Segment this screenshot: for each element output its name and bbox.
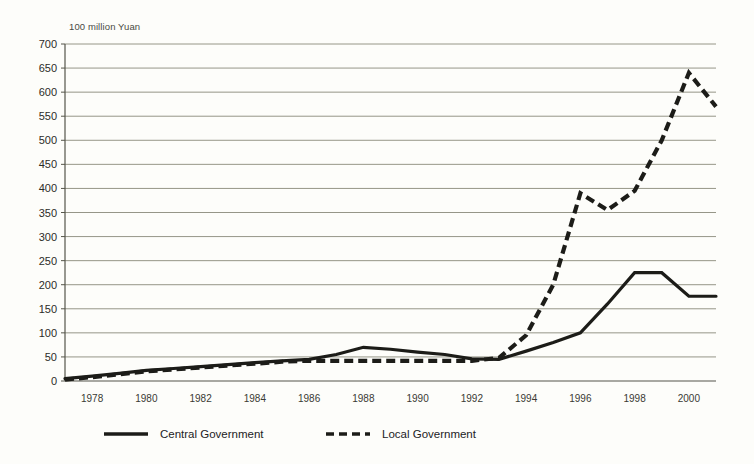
legend-swatch-dashed-icon [325, 428, 371, 440]
chart-container: 100 million Yuan 05010015020025030035040… [0, 0, 754, 464]
legend-item-local-government: Local Government [325, 428, 476, 440]
legend-item-central-government: Central Government [103, 428, 264, 440]
gridlines [65, 44, 716, 357]
plot-area [0, 0, 754, 464]
data-line-local-government [65, 73, 716, 380]
legend-swatch-solid-icon [103, 428, 149, 440]
legend-label-central-government: Central Government [160, 428, 264, 440]
data-series-layer [65, 73, 716, 380]
legend-label-local-government: Local Government [382, 428, 476, 440]
chart-legend: Central Government Local Government [0, 428, 754, 458]
